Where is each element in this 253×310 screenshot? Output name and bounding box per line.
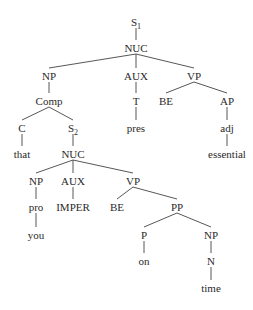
tree-node-you: you	[28, 229, 45, 241]
tree-node-vp2: VP	[126, 175, 140, 187]
tree-node-aux1: AUX	[124, 70, 148, 82]
node-label: NP	[204, 229, 218, 241]
tree-node-time: time	[201, 282, 221, 294]
tree-node-c: C	[18, 122, 25, 134]
tree-node-np1: NP	[42, 70, 56, 82]
tree-node-vp1: VP	[187, 70, 201, 82]
tree-edge-comp-s2	[49, 107, 73, 120]
node-label: pres	[127, 122, 145, 134]
node-label: VP	[126, 175, 140, 187]
tree-edge-vp1-be1	[166, 82, 194, 93]
node-label: P	[141, 229, 147, 241]
node-label: BE	[110, 201, 124, 213]
node-label: NP	[42, 70, 56, 82]
tree-edge-vp1-ap	[194, 82, 227, 93]
tree-node-imper: IMPER	[56, 201, 90, 213]
tree-node-t: T	[133, 95, 140, 107]
tree-node-pp: PP	[171, 201, 183, 213]
tree-node-n: N	[207, 255, 215, 267]
tree-node-on: on	[139, 255, 151, 267]
node-label: on	[139, 255, 151, 267]
tree-node-essential: essential	[208, 148, 246, 160]
node-label: BE	[159, 95, 173, 107]
node-label: AUX	[61, 175, 85, 187]
node-label: you	[28, 229, 45, 241]
tree-node-aux2: AUX	[61, 175, 85, 187]
node-label: NUC	[61, 148, 84, 160]
tree-edge-nuc1-vp1	[136, 54, 194, 68]
node-label: that	[14, 148, 31, 160]
node-label: N	[207, 255, 215, 267]
node-label: Comp	[36, 95, 63, 107]
tree-edge-vp2-be2	[117, 187, 133, 199]
tree-edge-pp-p	[144, 213, 177, 227]
node-label: IMPER	[56, 201, 90, 213]
tree-edges	[22, 28, 227, 280]
tree-edge-nuc2-np2	[36, 160, 73, 173]
tree-node-np3: NP	[204, 229, 218, 241]
node-label: adj	[220, 122, 233, 134]
syntax-tree-diagram: S1NUCNPAUXVPCompTBEAPCS2presadjthatNUCes…	[0, 0, 253, 310]
tree-node-np2: NP	[29, 175, 43, 187]
node-label: C	[18, 122, 25, 134]
tree-node-that: that	[14, 148, 31, 160]
tree-node-pres: pres	[127, 122, 145, 134]
node-subscript: 2	[74, 128, 78, 137]
tree-edge-vp2-pp	[133, 187, 177, 199]
node-label: pro	[29, 201, 44, 213]
tree-node-be1: BE	[159, 95, 173, 107]
tree-edge-nuc2-vp2	[73, 160, 133, 173]
tree-node-pro: pro	[29, 201, 44, 213]
node-subscript: 1	[137, 22, 141, 31]
node-label: NUC	[124, 42, 147, 54]
tree-node-p: P	[141, 229, 147, 241]
tree-edge-comp-c	[22, 107, 49, 120]
node-label: NP	[29, 175, 43, 187]
tree-node-adj: adj	[220, 122, 233, 134]
tree-node-be2: BE	[110, 201, 124, 213]
tree-node-nuc2: NUC	[61, 148, 84, 160]
node-label: T	[133, 95, 140, 107]
tree-node-ap: AP	[220, 95, 234, 107]
node-label: essential	[208, 148, 246, 160]
node-label: AUX	[124, 70, 148, 82]
tree-edge-nuc1-np1	[49, 54, 136, 68]
node-label: time	[201, 282, 221, 294]
node-label: VP	[187, 70, 201, 82]
tree-node-comp: Comp	[36, 95, 63, 107]
node-label: PP	[171, 201, 183, 213]
tree-edge-pp-np3	[177, 213, 211, 227]
node-label: AP	[220, 95, 234, 107]
tree-node-nuc1: NUC	[124, 42, 147, 54]
